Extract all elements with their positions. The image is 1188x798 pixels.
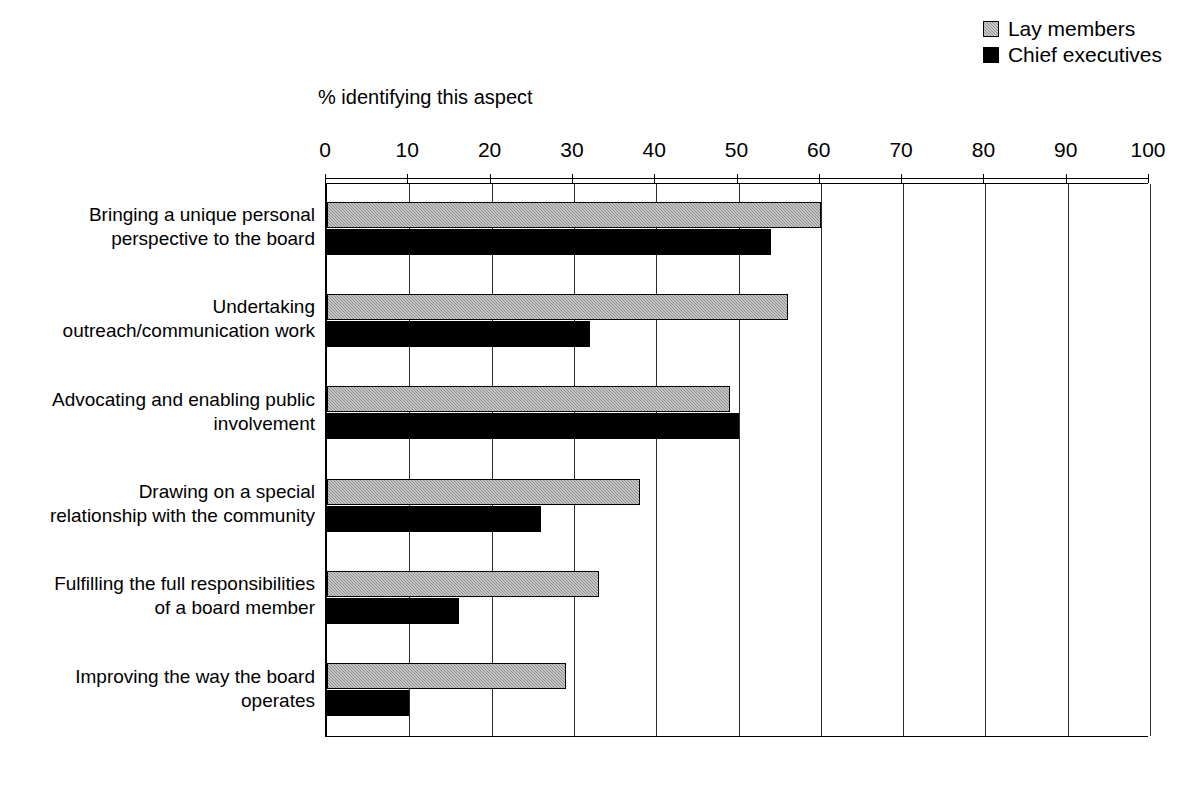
x-tick-label-100: 100 <box>1130 138 1165 162</box>
category-label: Fulfilling the full responsibilitiesof a… <box>12 572 315 621</box>
category-label-line: Improving the way the board <box>12 665 315 689</box>
solid-black-square-icon <box>983 47 999 63</box>
category-label-line: involvement <box>12 412 315 436</box>
legend-item-chief-executives: Chief executives <box>983 44 1162 65</box>
category-label-line: outreach/communication work <box>12 319 315 343</box>
gridline-50 <box>739 184 740 736</box>
legend-label-chief-executives: Chief executives <box>1008 44 1162 65</box>
x-tick-label-70: 70 <box>889 138 912 162</box>
category-label-line: perspective to the board <box>12 227 315 251</box>
gridline-80 <box>985 184 986 736</box>
bar-chief-executives <box>327 321 590 347</box>
x-tick-label-10: 10 <box>396 138 419 162</box>
category-label: Undertakingoutreach/communication work <box>12 295 315 344</box>
category-label: Drawing on a specialrelationship with th… <box>12 480 315 529</box>
x-tick-label-60: 60 <box>807 138 830 162</box>
x-tick-label-30: 30 <box>560 138 583 162</box>
x-tick-label-20: 20 <box>478 138 501 162</box>
gridline-60 <box>821 184 822 736</box>
category-label-line: Drawing on a special <box>12 480 315 504</box>
legend-label-lay-members: Lay members <box>1008 18 1135 39</box>
gridline-40 <box>656 184 657 736</box>
gridline-20 <box>492 184 493 736</box>
bar-chief-executives <box>327 506 541 532</box>
chart-legend: Lay members Chief executives <box>983 18 1162 65</box>
bar-chief-executives <box>327 690 409 716</box>
bar-group <box>327 202 1148 255</box>
bar-lay-members <box>327 386 730 412</box>
gridline-30 <box>574 184 575 736</box>
x-axis-line <box>325 178 1149 179</box>
category-label: Improving the way the boardoperates <box>12 665 315 714</box>
category-label-line: Bringing a unique personal <box>12 203 315 227</box>
x-tick-label-80: 80 <box>972 138 995 162</box>
chart-plot-area <box>325 183 1148 737</box>
bar-group <box>327 663 1148 716</box>
x-tick-label-40: 40 <box>643 138 666 162</box>
chart-gridlines <box>327 184 1148 736</box>
bar-lay-members <box>327 479 640 505</box>
category-label-line: Advocating and enabling public <box>12 388 315 412</box>
category-label-line: of a board member <box>12 596 315 620</box>
category-label-line: operates <box>12 689 315 713</box>
gridline-90 <box>1068 184 1069 736</box>
gridline-70 <box>903 184 904 736</box>
bar-group <box>327 479 1148 532</box>
category-label-line: Undertaking <box>12 295 315 319</box>
bar-lay-members <box>327 571 599 597</box>
bar-chief-executives <box>327 598 459 624</box>
bar-group <box>327 294 1148 347</box>
y-axis-category-labels: Bringing a unique personalperspective to… <box>12 183 315 737</box>
category-label: Advocating and enabling publicinvolvemen… <box>12 388 315 437</box>
legend-item-lay-members: Lay members <box>983 18 1135 39</box>
bar-group <box>327 571 1148 624</box>
bar-chief-executives <box>327 229 771 255</box>
bar-chief-executives <box>327 413 739 439</box>
category-label: Bringing a unique personalperspective to… <box>12 203 315 252</box>
x-tick-label-0: 0 <box>319 138 331 162</box>
category-label-line: relationship with the community <box>12 504 315 528</box>
x-axis-title: % identifying this aspect <box>318 86 533 109</box>
x-tick-label-90: 90 <box>1054 138 1077 162</box>
category-label-line: Fulfilling the full responsibilities <box>12 572 315 596</box>
x-tick-label-50: 50 <box>725 138 748 162</box>
bar-lay-members <box>327 202 821 228</box>
gridline-100 <box>1150 184 1151 736</box>
bar-lay-members <box>327 294 788 320</box>
bar-group <box>327 386 1148 439</box>
gridline-10 <box>409 184 410 736</box>
hatched-gray-square-icon <box>983 21 999 37</box>
bar-lay-members <box>327 663 566 689</box>
